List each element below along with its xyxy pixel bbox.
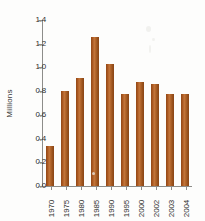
x-axis-tick-label-text: 1975: [61, 194, 70, 221]
y-axis-tick-mark: [38, 162, 42, 163]
bar-slot: [133, 20, 148, 186]
bar: [76, 78, 84, 186]
x-axis-tick-label-text: 1995: [121, 194, 130, 221]
y-axis-tick-mark: [38, 139, 42, 140]
x-axis-tick-label-text: 1990: [106, 194, 115, 221]
bar: [46, 146, 54, 186]
x-axis-tick-label-text: 2002: [151, 194, 160, 221]
plot-area: [43, 20, 193, 186]
x-axis-tick-label: 1995: [121, 190, 131, 220]
bar: [106, 64, 114, 186]
x-axis-line: [42, 186, 192, 187]
bar: [121, 94, 129, 186]
bar-slot: [163, 20, 178, 186]
bar-slot: [178, 20, 193, 186]
x-axis-tick-label: 1975: [61, 190, 71, 220]
scan-speck: [92, 172, 95, 175]
x-axis-tick-label-text: 1970: [46, 194, 55, 221]
bar-chart: Millions 0.00.20.40.60.81.01.21.4 197019…: [0, 0, 205, 220]
y-axis-tick-mark: [38, 67, 42, 68]
bar: [151, 84, 159, 186]
bar-slot: [103, 20, 118, 186]
bar-slot: [118, 20, 133, 186]
x-axis-tick-label: 2000: [136, 190, 146, 220]
bar-slot: [43, 20, 58, 186]
x-axis-tick-label: 1980: [76, 190, 86, 220]
x-axis-tick-label-text: 1980: [76, 194, 85, 221]
scan-speck: [152, 38, 155, 41]
y-axis-tick-mark: [38, 186, 42, 187]
x-axis-tick-label-text: 2000: [136, 194, 145, 221]
x-axis-tick-label-text: 2004: [181, 194, 190, 221]
bar-slot: [58, 20, 73, 186]
scan-speck: [149, 45, 151, 53]
bar: [91, 37, 99, 186]
y-axis-title-text: Millions: [5, 84, 14, 124]
bar-slot: [73, 20, 88, 186]
y-axis-title: Millions: [2, 74, 16, 134]
x-axis-tick-label: 1990: [106, 190, 116, 220]
scan-speck: [146, 26, 151, 32]
x-axis-tick-label: 2003: [166, 190, 176, 220]
bar: [136, 82, 144, 186]
y-axis-tick-mark: [38, 44, 42, 45]
bar: [61, 91, 69, 186]
x-axis-tick-label-text: 2003: [166, 194, 175, 221]
bar: [181, 94, 189, 186]
x-axis-tick-label: 1970: [46, 190, 56, 220]
y-axis-tick-mark: [38, 115, 42, 116]
bar-slot: [88, 20, 103, 186]
bar: [166, 94, 174, 186]
x-axis-tick-label: 2004: [181, 190, 191, 220]
x-axis-tick-label: 2002: [151, 190, 161, 220]
x-axis-tick-label-text: 1985: [91, 194, 100, 221]
y-axis-tick-mark: [38, 20, 42, 21]
x-axis-tick-label: 1985: [91, 190, 101, 220]
y-axis-tick-mark: [38, 91, 42, 92]
